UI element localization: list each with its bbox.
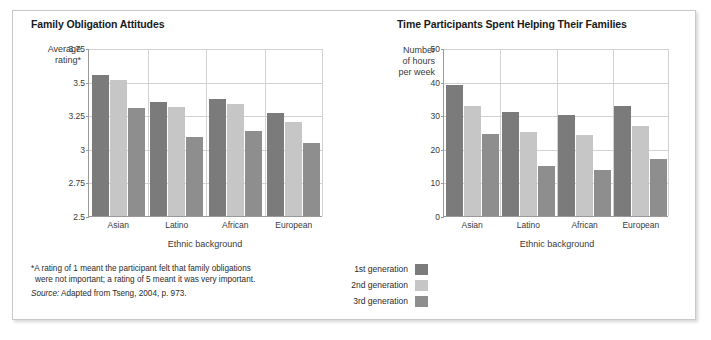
source-prefix: Source:	[31, 289, 59, 298]
plot-area-right: 50403020100AsianLatinoAfricanEuropean	[443, 49, 668, 217]
chart-panel-family-obligation: Family Obligation Attitudes Average rati…	[13, 11, 353, 261]
x-axis-label-right: Ethnic background	[520, 239, 595, 250]
footnote: *A rating of 1 meant the participant fel…	[31, 263, 255, 285]
bar-group-african	[206, 49, 265, 216]
x-axis-tick-label-african: African	[222, 220, 248, 230]
bar-group-african	[557, 49, 613, 216]
y-axis-label-left-line2: rating*	[55, 55, 81, 65]
bar-european-gen1[interactable]	[267, 113, 284, 216]
bar-european-gen3[interactable]	[650, 159, 667, 216]
y-axis-tick-label: 10	[431, 178, 440, 188]
y-axis-label-right-line2: of hours	[402, 56, 435, 66]
bar-group-latino	[500, 49, 556, 216]
bar-latino-gen1[interactable]	[150, 102, 167, 216]
legend-label-1st: 1st generation	[354, 264, 408, 274]
y-axis-tick-label: 3	[80, 145, 85, 155]
bar-african-gen3[interactable]	[245, 131, 262, 216]
bar-group-asian	[89, 49, 148, 216]
bar-asian-gen3[interactable]	[482, 134, 499, 216]
y-axis-tick-label: 30	[431, 111, 440, 121]
footnote-line-1: *A rating of 1 meant the participant fel…	[31, 264, 251, 273]
chart-panel-time-helping: Time Participants Spent Helping Their Fa…	[357, 11, 697, 261]
bar-group-european	[265, 49, 324, 216]
y-axis-tick-label: 2.5	[73, 212, 85, 222]
y-axis-tick-label: 0	[435, 212, 440, 222]
legend-item-3rd[interactable]: 3rd generation	[323, 293, 428, 309]
bar-european-gen3[interactable]	[303, 143, 320, 216]
source-citation: Source: Adapted from Tseng, 2004, p. 973…	[31, 289, 187, 298]
x-axis-tick-label-european: European	[275, 220, 312, 230]
bar-european-gen2[interactable]	[632, 126, 649, 216]
bar-african-gen2[interactable]	[227, 104, 244, 216]
y-axis-tick-label: 2.75	[68, 178, 85, 188]
bar-latino-gen2[interactable]	[520, 132, 537, 216]
y-axis-label-right-line3: per week	[398, 67, 435, 77]
bar-asian-gen2[interactable]	[464, 106, 481, 216]
legend-label-2nd: 2nd generation	[351, 280, 408, 290]
chart-legend: 1st generation2nd generation3rd generati…	[323, 261, 428, 309]
bar-asian-gen2[interactable]	[110, 80, 127, 216]
y-axis-tick-label: 50	[431, 44, 440, 54]
bar-african-gen1[interactable]	[209, 99, 226, 216]
source-text: Adapted from Tseng, 2004, p. 973.	[61, 289, 186, 298]
bar-asian-gen1[interactable]	[446, 85, 463, 216]
bar-group-european	[613, 49, 669, 216]
x-axis-tick-label-latino: Latino	[517, 220, 540, 230]
x-axis-label-left: Ethnic background	[168, 239, 243, 250]
bar-african-gen2[interactable]	[576, 135, 593, 216]
bar-african-gen1[interactable]	[558, 115, 575, 216]
bar-european-gen2[interactable]	[285, 122, 302, 216]
x-axis-tick-label-latino: Latino	[165, 220, 188, 230]
legend-swatch-1st	[415, 264, 428, 275]
legend-label-3rd: 3rd generation	[353, 296, 408, 306]
bar-group-asian	[444, 49, 500, 216]
x-axis-tick-label-african: African	[571, 220, 597, 230]
bar-african-gen3[interactable]	[594, 170, 611, 216]
y-axis-tick-label: 20	[431, 145, 440, 155]
chart-title-left: Family Obligation Attitudes	[31, 18, 164, 30]
y-axis-tick-label: 3.75	[68, 44, 85, 54]
chart-title-right: Time Participants Spent Helping Their Fa…	[397, 18, 627, 30]
bar-latino-gen2[interactable]	[168, 107, 185, 216]
y-axis-tick-mark	[441, 217, 444, 218]
legend-item-1st[interactable]: 1st generation	[323, 261, 428, 277]
figure-frame: Family Obligation Attitudes Average rati…	[12, 10, 696, 320]
x-axis-tick-label-asian: Asian	[108, 220, 129, 230]
bar-latino-gen3[interactable]	[538, 166, 555, 216]
bar-group-latino	[148, 49, 207, 216]
y-axis-tick-label: 3.5	[73, 78, 85, 88]
footnote-line-2: were not important; a rating of 5 meant …	[31, 274, 255, 285]
x-axis-tick-label-european: European	[622, 220, 659, 230]
y-axis-tick-label: 3.25	[68, 111, 85, 121]
legend-item-2nd[interactable]: 2nd generation	[323, 277, 428, 293]
legend-swatch-3rd	[415, 296, 428, 307]
legend-swatch-2nd	[415, 280, 428, 291]
x-axis-tick-label-asian: Asian	[461, 220, 482, 230]
bar-asian-gen1[interactable]	[92, 75, 109, 216]
bar-latino-gen3[interactable]	[186, 137, 203, 216]
y-axis-tick-label: 40	[431, 78, 440, 88]
y-axis-label-right: Number of hours per week	[377, 45, 435, 78]
plot-area-left: 3.753.53.2532.752.5AsianLatinoAfricanEur…	[88, 49, 322, 217]
y-axis-tick-mark	[86, 217, 89, 218]
bar-latino-gen1[interactable]	[502, 112, 519, 216]
bar-european-gen1[interactable]	[614, 106, 631, 216]
bar-asian-gen3[interactable]	[128, 108, 145, 216]
